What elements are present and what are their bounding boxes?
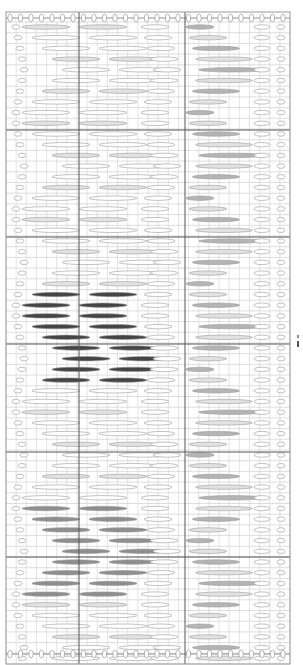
float-stitches [12,25,285,661]
stitch-chart [0,0,303,665]
chart-grid [6,22,290,664]
side-label-mark [297,335,299,347]
